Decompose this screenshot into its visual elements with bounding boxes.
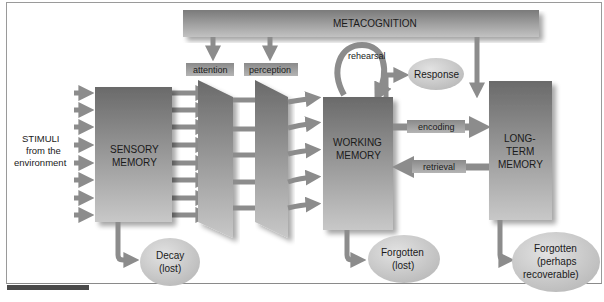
forgotten-ltm-line3: recoverable) (523, 269, 579, 280)
rehearsal-loop: rehearsal (338, 45, 386, 95)
stimuli-text: STIMULI from the environment (14, 133, 67, 168)
working-memory-line2: MEMORY (336, 150, 381, 161)
decay-ellipse: Decay (lost) (140, 238, 200, 286)
perception-output-arrows (288, 98, 315, 208)
sensory-memory-line2: MEMORY (112, 157, 157, 168)
stimuli-line2: from the (26, 145, 61, 156)
forgotten-wm-ellipse: Forgotten (lost) (368, 235, 440, 283)
forgotten-ltm-line2: (perhaps (537, 256, 576, 267)
memory-model-diagram: METACOGNITION attention perception STIMU… (0, 0, 604, 302)
arrow-to-response (386, 75, 403, 97)
stimuli-line1: STIMULI (22, 133, 59, 144)
decay-line1: Decay (156, 250, 184, 261)
metacognition-bar: METACOGNITION (183, 10, 539, 37)
retrieval-label: retrieval (423, 162, 455, 172)
forgotten-ltm-line1: Forgotten (534, 243, 577, 254)
encoding-label: encoding (418, 122, 455, 132)
response-label: Response (414, 69, 459, 80)
working-memory-line1: WORKING (333, 137, 382, 148)
long-term-memory-box: LONG- TERM MEMORY (489, 81, 552, 220)
figure-stage: METACOGNITION attention perception STIMU… (0, 0, 604, 302)
sensory-memory-line1: SENSORY (110, 144, 159, 155)
stimulus-arrows (74, 93, 88, 215)
ltm-line1: LONG- (504, 133, 536, 144)
arrow-to-decay (118, 222, 133, 260)
perception-filter (255, 80, 288, 238)
working-memory-box: WORKING MEMORY (323, 97, 393, 230)
attention-label: attention (193, 65, 228, 75)
stimuli-line3: environment (14, 157, 67, 168)
encoding-arrow: encoding (393, 120, 482, 133)
sensory-memory-box: SENSORY MEMORY (95, 87, 172, 222)
ltm-line2: TERM (506, 146, 534, 157)
attention-label-box: attention (186, 63, 234, 76)
perception-label-box: perception (244, 63, 298, 76)
retrieval-arrow: retrieval (401, 160, 489, 173)
ltm-line3: MEMORY (498, 159, 543, 170)
forgotten-wm-line1: Forgotten (381, 247, 424, 258)
metacognition-label: METACOGNITION (333, 18, 417, 29)
arrow-to-forgotten-ltm (500, 220, 508, 260)
arrow-to-forgotten-wm (347, 230, 360, 260)
decay-line2: (lost) (159, 263, 181, 274)
forgotten-ltm-ellipse: Forgotten (perhaps recoverable) (512, 232, 600, 292)
forgotten-wm-line2: (lost) (392, 260, 414, 271)
attention-filter (198, 80, 233, 238)
rehearsal-label: rehearsal (348, 51, 386, 61)
perception-label: perception (249, 65, 291, 75)
response-ellipse: Response (408, 58, 464, 90)
